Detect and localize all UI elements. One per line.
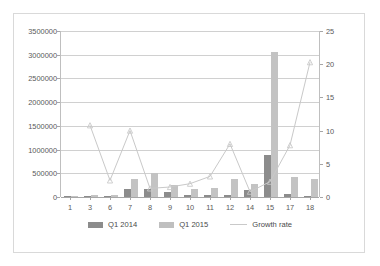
x-axis-tick-label-17: 17 bbox=[286, 203, 294, 212]
x-axis-tick-label-7: 7 bbox=[128, 203, 132, 212]
legend-swatch-q1-2014 bbox=[88, 222, 103, 228]
y-axis-left-tick-mark bbox=[57, 173, 60, 174]
y-axis-left-tick-mark bbox=[57, 31, 60, 32]
x-axis-tick-label-6: 6 bbox=[108, 203, 112, 212]
y-axis-left-tick-mark bbox=[57, 197, 60, 198]
y-axis-left-tick-label: 500000 bbox=[32, 169, 57, 178]
x-axis-tick-mark bbox=[230, 197, 231, 200]
y-axis-left-tick-mark bbox=[57, 55, 60, 56]
x-axis-tick-mark bbox=[110, 197, 111, 200]
y-axis-right-tick-label: 0 bbox=[326, 193, 330, 202]
y-axis-left-tick-label: 3000000 bbox=[28, 50, 57, 59]
legend-item-q1-2014[interactable]: Q1 2014 bbox=[88, 220, 137, 229]
legend-item-q1-2015[interactable]: Q1 2015 bbox=[159, 220, 208, 229]
x-axis-tick-label-12: 12 bbox=[226, 203, 234, 212]
y-axis-left-tick-label: 1000000 bbox=[28, 145, 57, 154]
x-axis-tick-mark bbox=[90, 197, 91, 200]
y-axis-right-tick-label: 10 bbox=[326, 126, 334, 135]
x-axis-tick-mark bbox=[130, 197, 131, 200]
x-axis-tick-label-8: 8 bbox=[148, 203, 152, 212]
x-axis-tick-label-15: 15 bbox=[266, 203, 274, 212]
legend-label-q1-2014: Q1 2014 bbox=[108, 220, 137, 229]
x-axis-tick-mark bbox=[290, 197, 291, 200]
y-axis-right-tick-mark bbox=[320, 97, 323, 98]
chart-legend: Q1 2014 Q1 2015 Growth rate bbox=[14, 220, 366, 229]
y-axis-left-tick-mark bbox=[57, 126, 60, 127]
chart-container: Q1 2014 Q1 2015 Growth rate 050000010000… bbox=[13, 13, 365, 253]
y-axis-left-tick-label: 2500000 bbox=[28, 74, 57, 83]
y-axis-left-tick-mark bbox=[57, 78, 60, 79]
y-axis-right-tick-mark bbox=[320, 197, 323, 198]
growth-rate-line-series bbox=[14, 14, 366, 254]
x-axis-tick-mark bbox=[70, 197, 71, 200]
y-axis-right-tick-label: 20 bbox=[326, 60, 334, 69]
x-axis-tick-mark bbox=[310, 197, 311, 200]
legend-swatch-q1-2015 bbox=[159, 222, 174, 228]
y-axis-left-tick-mark bbox=[57, 150, 60, 151]
x-axis-tick-mark bbox=[270, 197, 271, 200]
y-axis-right-tick-label: 25 bbox=[326, 27, 334, 36]
y-axis-right-tick-mark bbox=[320, 164, 323, 165]
x-axis-tick-label-14: 14 bbox=[246, 203, 254, 212]
chart-plot-wrapper: Q1 2014 Q1 2015 Growth rate 050000010000… bbox=[14, 14, 366, 254]
x-axis-tick-label-9: 9 bbox=[168, 203, 172, 212]
y-axis-left-tick-label: 2000000 bbox=[28, 98, 57, 107]
legend-label-growth-rate: Growth rate bbox=[252, 220, 292, 229]
x-axis-tick-label-3: 3 bbox=[88, 203, 92, 212]
y-axis-right-tick-mark bbox=[320, 64, 323, 65]
y-axis-left-tick-mark bbox=[57, 102, 60, 103]
x-axis-tick-label-1: 1 bbox=[68, 203, 72, 212]
y-axis-left-tick-label: 3500000 bbox=[28, 27, 57, 36]
growth-rate-polyline bbox=[90, 62, 310, 192]
y-axis-right-tick-label: 5 bbox=[326, 159, 330, 168]
x-axis-tick-mark bbox=[170, 197, 171, 200]
legend-label-q1-2015: Q1 2015 bbox=[179, 220, 208, 229]
x-axis-tick-mark bbox=[150, 197, 151, 200]
legend-swatch-growth-rate bbox=[230, 221, 247, 228]
x-axis-tick-label-18: 18 bbox=[306, 203, 314, 212]
y-axis-right-tick-label: 15 bbox=[326, 93, 334, 102]
y-axis-right-tick-mark bbox=[320, 131, 323, 132]
x-axis-tick-mark bbox=[250, 197, 251, 200]
x-axis-tick-label-10: 10 bbox=[186, 203, 194, 212]
x-axis-tick-mark bbox=[210, 197, 211, 200]
legend-item-growth-rate[interactable]: Growth rate bbox=[230, 220, 292, 229]
y-axis-right-tick-mark bbox=[320, 31, 323, 32]
x-axis-tick-mark bbox=[190, 197, 191, 200]
y-axis-left-tick-label: 1500000 bbox=[28, 121, 57, 130]
x-axis-tick-label-11: 11 bbox=[206, 203, 214, 212]
